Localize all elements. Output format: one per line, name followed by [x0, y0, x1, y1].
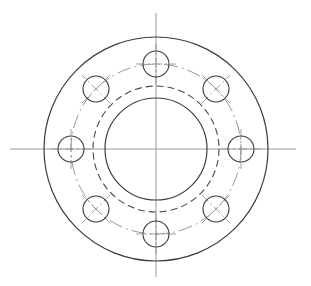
flange-technical-drawing [0, 0, 311, 286]
flange-drawing-canvas [0, 0, 311, 286]
